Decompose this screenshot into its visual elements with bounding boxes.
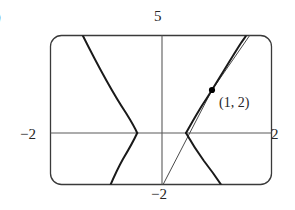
y-axis-min-tick-label: −2 [151,186,167,203]
x-axis-max-tick-label: 2 [271,126,279,143]
y-axis-max-tick-label: 5 [154,8,162,25]
plot-canvas [0,0,295,210]
figure-root: ) 5 −2 2 − [0,0,295,210]
point-marker [209,87,215,93]
point-coordinate-label: (1, 2) [219,95,249,111]
x-axis-min-tick-label: −2 [20,126,36,143]
